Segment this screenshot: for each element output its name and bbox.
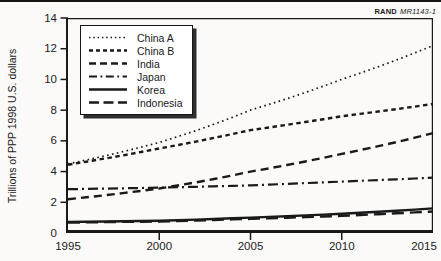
legend-label: China A [137,32,174,44]
x-tick-label: 2010 [329,240,355,253]
legend-label: Indonesia [137,97,183,109]
legend-label: Korea [137,84,165,96]
legend-label: China B [137,45,174,57]
legend-line-sample [88,44,128,57]
legend: China AChina BIndiaJapanKoreaIndonesia [80,25,193,115]
y-tick-label: 0 [27,227,57,240]
legend-line-sample [88,57,128,70]
legend-line-sample [88,83,128,96]
y-tick-label: 4 [27,165,57,178]
x-tick-label: 1995 [55,240,81,253]
legend-line-sample [88,70,128,83]
legend-rows: China AChina BIndiaJapanKoreaIndonesia [88,31,183,109]
legend-label: India [137,58,160,70]
plot-area [0,0,441,261]
x-tick-label: 2005 [238,240,264,253]
legend-line-sample [88,96,128,109]
legend-item-china-a: China A [88,31,183,44]
series-line-japan [68,178,433,190]
legend-item-japan: Japan [88,70,183,83]
legend-item-china-b: China B [88,44,183,57]
y-tick-label: 10 [27,73,57,86]
legend-item-korea: Korea [88,83,183,96]
x-tick-label: 2015 [411,240,437,253]
y-tick-label: 12 [27,42,57,55]
x-tick-label: 2000 [146,240,172,253]
legend-item-indonesia: Indonesia [88,96,183,109]
y-tick-label: 6 [27,134,57,147]
legend-item-india: India [88,57,183,70]
legend-label: Japan [137,71,166,83]
chart-figure: RANDMR1143-1 Trillions of PPP 1998 U.S. … [0,0,441,261]
y-tick-label: 8 [27,104,57,117]
y-tick-label: 14 [27,12,57,25]
y-tick-label: 2 [27,196,57,209]
legend-line-sample [88,31,128,44]
